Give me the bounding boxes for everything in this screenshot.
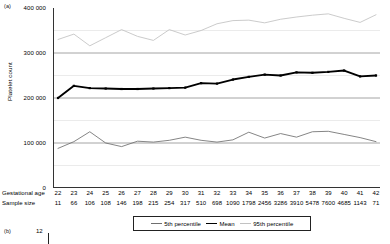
x-axis-sample-size-value: 11 <box>55 200 61 206</box>
x-axis-sample-size-value: 66 <box>71 200 78 206</box>
x-axis-age-value: 38 <box>309 190 316 196</box>
figure-panel-a: (a) Platelet count 0100 000200 000300 00… <box>0 0 390 244</box>
x-axis-age-value: 24 <box>86 190 93 196</box>
x-axis-sample-size-value: 1090 <box>226 200 240 206</box>
x-axis-age-value: 36 <box>277 190 284 196</box>
x-axis-sample-size-value: 71 <box>373 200 380 206</box>
panel-b-label: (b) <box>4 228 11 234</box>
x-axis-age-value: 40 <box>341 190 348 196</box>
chart-legend: 5th percentileMean95th percentile <box>133 216 311 231</box>
legend-item: Mean <box>206 221 235 227</box>
x-axis-gestational-age-row: Gestational age 222324252627282930313233… <box>0 190 390 199</box>
legend-item-label: 5th percentile <box>164 221 201 227</box>
legend-item-label: Mean <box>219 221 234 227</box>
x-axis-age-value: 28 <box>150 190 157 196</box>
x-axis-age-value: 39 <box>325 190 332 196</box>
x-axis-sample-size-value: 146 <box>117 200 127 206</box>
x-axis-age-value: 34 <box>245 190 252 196</box>
x-axis-sample-size-value: 215 <box>148 200 158 206</box>
x-axis-sample-size-value: 4685 <box>337 200 351 206</box>
x-axis-age-value: 23 <box>71 190 78 196</box>
x-axis-sample-size-value: 1143 <box>354 200 367 206</box>
x-axis-sample-size-value: 2456 <box>258 200 272 206</box>
x-axis-sample-size-value: 3910 <box>290 200 304 206</box>
x-axis-sample-size-value: 106 <box>85 200 95 206</box>
x-axis-age-value: 42 <box>373 190 380 196</box>
x-axis-sample-size-value: 254 <box>164 200 174 206</box>
x-axis-sample-size-value: 7600 <box>322 200 336 206</box>
x-axis-sample-size-value: 1798 <box>242 200 256 206</box>
x-axis-sample-size-value: 198 <box>132 200 142 206</box>
y-axis-tick-label: 400 000 <box>2 5 46 11</box>
x-axis-age-value: 29 <box>166 190 173 196</box>
panel-b-axis-line <box>48 233 49 244</box>
x-axis-sample-size-row-title: Sample size <box>2 200 35 206</box>
legend-item: 5th percentile <box>151 221 201 227</box>
legend-line-swatch-icon <box>151 223 162 224</box>
legend-item: 95th percentile <box>240 221 294 227</box>
legend-line-swatch-icon <box>206 223 217 224</box>
x-axis-sample-size-value: 510 <box>196 200 206 206</box>
x-axis-sample-size-value: 317 <box>180 200 190 206</box>
x-axis-age-value: 37 <box>293 190 300 196</box>
y-axis-tick-label: 100 000 <box>2 140 46 146</box>
x-axis-age-value: 22 <box>55 190 62 196</box>
y-axis-tick-label: 300 000 <box>2 50 46 56</box>
chart-plot-area <box>53 8 380 188</box>
x-axis-age-value: 26 <box>118 190 125 196</box>
x-axis-sample-size-value: 3286 <box>274 200 288 206</box>
chart-svg <box>53 8 380 188</box>
x-axis-age-value: 30 <box>182 190 189 196</box>
x-axis-age-value: 35 <box>261 190 268 196</box>
x-axis-age-row-title: Gestational age <box>2 190 45 196</box>
x-axis-sample-size-row: Sample size 1166106108146198215254317510… <box>0 200 390 209</box>
x-axis-age-value: 33 <box>230 190 237 196</box>
x-axis-age-value: 31 <box>198 190 205 196</box>
y-axis-tick-label: 200 000 <box>2 95 46 101</box>
legend-line-swatch-icon <box>240 223 251 224</box>
x-axis-age-value: 27 <box>134 190 141 196</box>
x-axis-age-value: 41 <box>357 190 364 196</box>
x-axis-sample-size-value: 108 <box>101 200 111 206</box>
x-axis-age-value: 25 <box>102 190 109 196</box>
legend-item-label: 95th percentile <box>253 221 293 227</box>
x-axis-sample-size-value: 698 <box>212 200 222 206</box>
x-axis-sample-size-value: 5478 <box>306 200 320 206</box>
x-axis-age-value: 32 <box>214 190 221 196</box>
panel-b-first-ytick: 12 <box>36 228 43 234</box>
